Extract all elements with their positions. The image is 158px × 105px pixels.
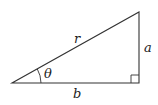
angle-label: θ <box>44 66 52 81</box>
hypotenuse-label: r <box>74 31 81 46</box>
right-triangle-diagram: r a θ b <box>0 0 158 105</box>
right-angle-marker <box>131 75 139 83</box>
triangle-outline <box>12 12 139 83</box>
angle-arc <box>37 69 41 83</box>
adjacent-side-label: b <box>73 86 81 101</box>
opposite-side-label: a <box>144 40 152 55</box>
